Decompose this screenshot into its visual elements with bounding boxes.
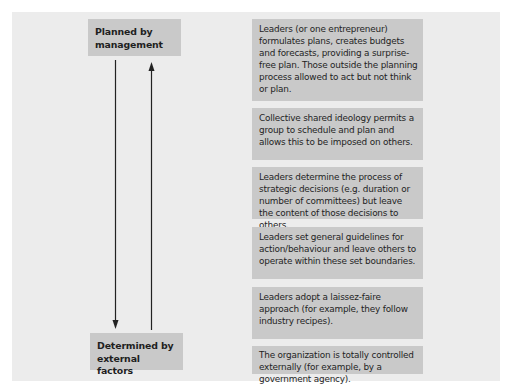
- determined-by-external-factors-box: Determined by external factors: [90, 333, 183, 370]
- description-text: Collective shared ideology permits a gro…: [259, 113, 414, 147]
- description-box: Leaders set general guidelines for actio…: [252, 227, 423, 279]
- planned-by-management-label: Planned by management: [95, 26, 163, 50]
- description-text: Leaders (or one entrepreneur) formulates…: [259, 24, 418, 94]
- planned-by-management-box: Planned by management: [88, 19, 181, 56]
- description-text: Leaders set general guidelines for actio…: [259, 232, 416, 266]
- description-box: Collective shared ideology permits a gro…: [252, 108, 423, 160]
- description-text: Leaders adopt a laissez-faire approach (…: [259, 292, 408, 326]
- description-box: The organization is totally controlled e…: [252, 346, 423, 374]
- description-box: Leaders determine the process of strateg…: [252, 167, 423, 219]
- description-box: Leaders adopt a laissez-faire approach (…: [252, 287, 423, 339]
- description-box: Leaders (or one entrepreneur) formulates…: [252, 19, 423, 101]
